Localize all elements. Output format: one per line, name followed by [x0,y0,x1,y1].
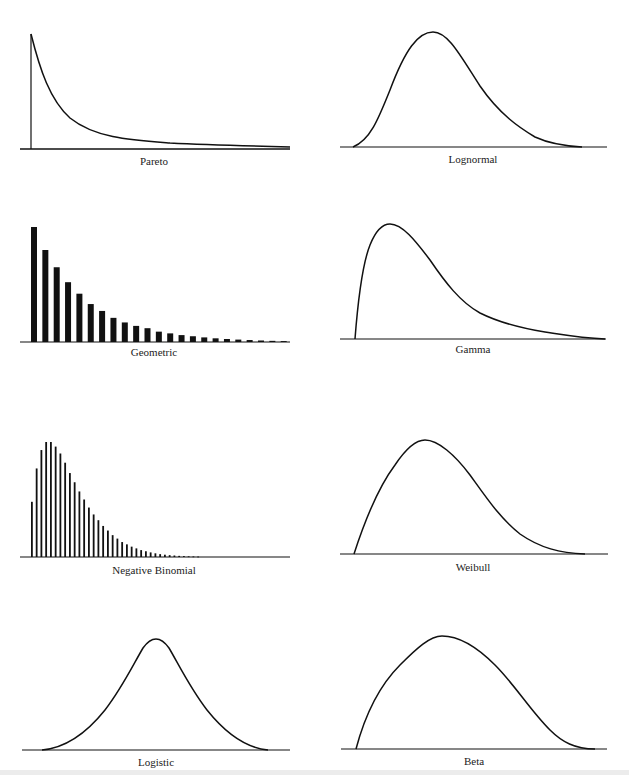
bar [41,450,43,557]
bar [156,332,162,342]
panel-label-logistic: Logistic [56,756,256,768]
bar [193,556,195,557]
panel-label-beta: Beta [374,755,574,767]
panel-label-lognormal: Lognormal [373,153,573,165]
bar [122,322,128,342]
bar [55,447,57,557]
bar [98,520,100,557]
bar [150,552,152,557]
distribution-figure: Pareto Lognormal Geometric Gamma Negativ… [0,0,629,775]
bar [213,338,219,342]
bar [155,553,157,557]
bar [235,340,241,342]
bar [174,556,176,557]
beta-plot [320,610,629,775]
bar [159,554,161,557]
density-curve [355,224,605,339]
bar [281,341,287,342]
bar [201,337,207,342]
bar [65,282,71,342]
bar [69,473,71,557]
bar [183,556,185,557]
bar [167,333,173,342]
bar [64,463,66,557]
bar [31,227,37,342]
panel-label-geometric: Geometric [54,346,254,358]
bar [224,339,230,342]
bar [60,454,62,558]
density-curve [356,636,595,749]
bar [145,551,147,557]
bar [36,468,38,557]
bar [197,557,199,558]
bar [121,542,123,557]
bar [145,328,151,342]
bar [269,341,275,342]
bar [140,550,142,557]
bar [88,508,90,557]
bar-series [31,227,287,342]
page-edge-band [0,770,629,775]
bar [83,500,85,558]
bar [178,556,180,557]
bar [126,544,128,557]
bar [31,502,33,557]
bar [131,547,133,557]
panel-label-negative-binomial: Negative Binomial [54,564,254,576]
bar [93,514,95,557]
panel-label-weibull: Weibull [373,561,573,573]
logistic-plot [0,610,310,775]
bar [76,294,82,342]
panel-label-pareto: Pareto [54,155,254,167]
bar [190,336,196,342]
bar [188,556,190,557]
bar [133,326,139,342]
bar [258,341,264,342]
bar [79,491,81,557]
density-curve [354,440,585,554]
bar [88,304,94,342]
bar [110,318,116,342]
bar [179,335,185,342]
bar [117,539,119,557]
bar [136,548,138,557]
bar [112,535,114,557]
bar [74,482,76,557]
panel-label-gamma: Gamma [373,343,573,355]
bar [169,555,171,557]
bar [54,267,60,342]
bar [99,311,105,342]
pareto-plot [0,0,310,180]
bar [42,250,48,342]
density-curve [42,639,268,750]
density-curve [31,34,290,147]
bar [164,555,166,557]
density-curve [353,32,582,147]
bar [45,442,47,557]
bar [247,340,253,342]
bar [102,526,104,557]
bar [107,531,109,557]
bar-series [31,442,199,557]
bar [50,442,52,557]
